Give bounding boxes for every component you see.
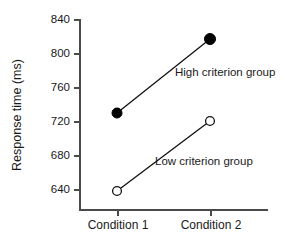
series-low-criterion-group: Low criterion group	[113, 117, 253, 196]
series-high-criterion-group: High criterion group	[112, 34, 275, 119]
series-label-high-criterion-group: High criterion group	[175, 66, 275, 78]
line-chart-svg: Response time (ms) 840 800 760 720 680 6…	[0, 0, 282, 243]
y-tick-label-760: 760	[51, 81, 70, 93]
y-axis-title: Response time (ms)	[10, 59, 24, 171]
chart-container: Response time (ms) 840 800 760 720 680 6…	[0, 0, 282, 243]
x-tick-label-condition-2: Condition 2	[181, 218, 242, 232]
y-tick-label-680: 680	[51, 149, 70, 161]
data-point-high-condition-1	[112, 108, 122, 118]
series-label-low-criterion-group: Low criterion group	[155, 155, 253, 167]
data-point-low-condition-2	[206, 117, 215, 126]
x-tick-label-condition-1: Condition 1	[88, 218, 149, 232]
data-point-low-condition-1	[113, 187, 122, 196]
y-tick-label-800: 800	[51, 47, 70, 59]
y-tick-label-640: 640	[51, 183, 70, 195]
y-tick-label-720: 720	[51, 115, 70, 127]
x-axis-ticks: Condition 1 Condition 2	[88, 210, 242, 232]
y-tick-label-840: 840	[51, 13, 70, 25]
data-point-high-condition-2	[205, 34, 216, 45]
y-axis-ticks: 840 800 760 720 680 640	[51, 13, 80, 195]
